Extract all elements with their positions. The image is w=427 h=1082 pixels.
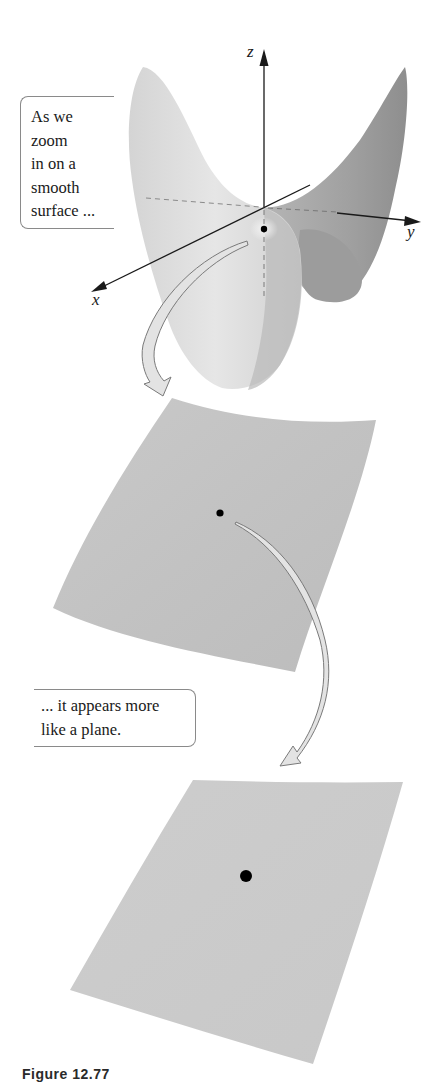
z-axis-label: z bbox=[247, 42, 254, 62]
callout-1-line: zoom bbox=[31, 129, 114, 153]
callout-1-line: in on a bbox=[31, 152, 114, 176]
callout-zoom-in: As we zoom in on a smooth surface ... bbox=[20, 96, 114, 229]
zoomed-patch bbox=[53, 398, 376, 672]
plane-patch bbox=[70, 780, 403, 1064]
callout-1-line: As we bbox=[31, 105, 114, 129]
y-axis-label: y bbox=[407, 222, 415, 242]
callout-2-line: like a plane. bbox=[41, 718, 195, 742]
callout-1-line: smooth bbox=[31, 176, 114, 200]
callout-1-line: surface ... bbox=[31, 199, 114, 223]
z-axis-arrowhead bbox=[260, 49, 269, 66]
zoomed-point bbox=[216, 509, 223, 516]
saddle-surface bbox=[91, 49, 421, 396]
point-of-tangency bbox=[261, 226, 267, 232]
callout-2-line: ... it appears more bbox=[41, 694, 195, 718]
plane-like-surface bbox=[70, 780, 403, 1064]
figure-caption: Figure 12.77 bbox=[22, 1066, 110, 1082]
plane-point bbox=[240, 870, 252, 882]
x-axis-label: x bbox=[92, 290, 100, 310]
callout-plane: ... it appears more like a plane. bbox=[34, 689, 196, 747]
